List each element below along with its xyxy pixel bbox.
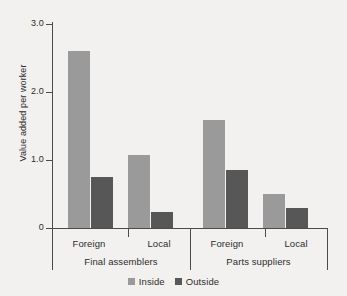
bar-final-assemblers-local-inside [128,155,150,228]
bar-final-assemblers-foreign-outside [91,177,113,228]
y-tick-label-1: 1.0 [4,155,44,164]
bar-final-assemblers-local-outside [151,212,173,228]
y-tick-label-2: 2.0 [4,87,44,96]
x-group-label-final-assemblers: Final assemblers [52,256,190,267]
legend-entry-inside: Inside [128,276,165,287]
legend-label-inside: Inside [139,276,165,287]
x-tick-label-parts-suppliers-local: Local [266,238,326,249]
square-swatch-icon [175,278,182,285]
x-axis-tick-parts-split [265,228,266,237]
x-axis-tick-final-split [128,228,129,237]
legend-label-outside: Outside [186,276,219,287]
bar-final-assemblers-foreign-inside [68,51,90,228]
bar-parts-suppliers-local-inside [263,194,285,228]
y-tick-label-3: 3.0 [4,19,44,28]
x-tick-label-final-assemblers-foreign: Foreign [58,238,120,249]
y-tick-label-0: 0 [4,223,44,232]
bar-chart-figure: Value added per worker 3.0 2.0 1.0 0 For… [0,0,347,296]
bars-layer [52,18,328,228]
x-axis-separator-right [327,228,328,270]
bar-parts-suppliers-foreign-outside [226,170,248,228]
x-tick-label-parts-suppliers-foreign: Foreign [196,238,258,249]
bar-parts-suppliers-local-outside [286,208,308,228]
legend-entry-outside: Outside [175,276,219,287]
x-group-label-parts-suppliers: Parts suppliers [190,256,327,267]
bar-parts-suppliers-foreign-inside [203,120,225,228]
x-tick-label-final-assemblers-local: Local [129,238,189,249]
chart-legend: Inside Outside [0,276,347,287]
square-swatch-icon [128,278,135,285]
